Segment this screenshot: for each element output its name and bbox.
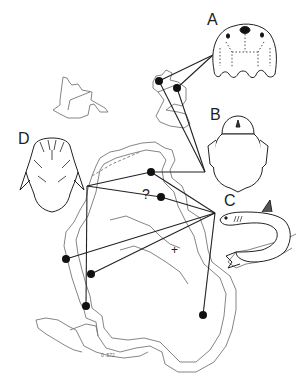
illustration-d-head (20, 138, 84, 212)
label-a: A (207, 12, 218, 28)
locality-dot (199, 311, 207, 319)
locality-dot (155, 77, 163, 85)
locality-dot (147, 168, 155, 176)
locality-dot (173, 84, 181, 92)
locality-dot (82, 302, 90, 310)
locality-dot (87, 270, 95, 278)
illustration-a-head-capsule (213, 24, 277, 77)
cross-marker: + (171, 244, 178, 256)
label-d: D (18, 131, 30, 147)
label-c: C (224, 193, 236, 209)
uncertain-marker: ? (142, 187, 150, 201)
locality-dot (62, 255, 70, 263)
map-note: 0 .572 (101, 353, 115, 358)
illustration-c-fish (220, 200, 290, 268)
label-b: B (210, 107, 221, 123)
locality-dot (157, 193, 165, 201)
illustration-b-beetle (208, 116, 268, 192)
